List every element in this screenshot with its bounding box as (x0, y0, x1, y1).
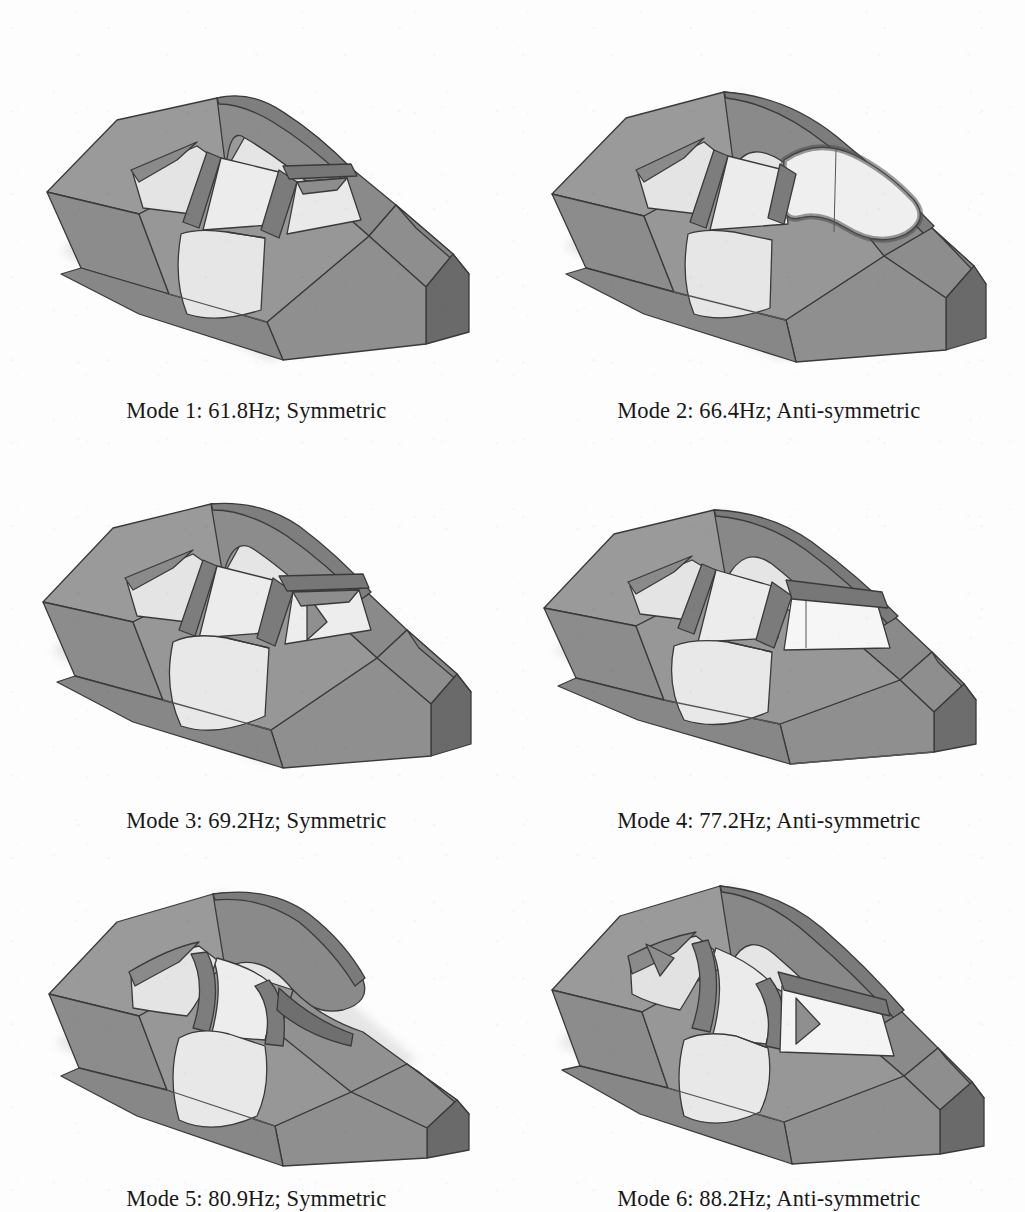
figure-caption-mode-3: Mode 3: 69.2Hz; Symmetric (126, 808, 386, 834)
mode-shape-render-mode-5 (21, 854, 491, 1174)
figure-cell-mode-6: Mode 6: 88.2Hz; Anti-symmetric (513, 840, 1025, 1201)
mode-shape-render-mode-4 (534, 452, 1004, 802)
figure-cell-mode-5: Mode 5: 80.9Hz; Symmetric (0, 840, 513, 1201)
figure-caption-mode-2: Mode 2: 66.4Hz; Anti-symmetric (617, 398, 920, 424)
figure-cell-mode-1: Mode 1: 61.8Hz; Symmetric (0, 0, 513, 440)
figure-caption-mode-4: Mode 4: 77.2Hz; Anti-symmetric (617, 808, 920, 834)
figure-cell-mode-4: Mode 4: 77.2Hz; Anti-symmetric (513, 440, 1025, 840)
figure-caption-mode-6: Mode 6: 88.2Hz; Anti-symmetric (617, 1186, 920, 1212)
figure-caption-mode-1: Mode 1: 61.8Hz; Symmetric (126, 398, 386, 424)
mode-shape-render-mode-2 (534, 42, 1004, 392)
figure-cell-mode-3: Mode 3: 69.2Hz; Symmetric (0, 440, 513, 840)
figure-caption-mode-5: Mode 5: 80.9Hz; Symmetric (126, 1186, 386, 1212)
mode-shape-render-mode-3 (21, 452, 491, 802)
mode-shape-render-mode-6 (534, 854, 1004, 1174)
mode-shape-render-mode-1 (21, 42, 491, 392)
figure-cell-mode-2: Mode 2: 66.4Hz; Anti-symmetric (513, 0, 1025, 440)
